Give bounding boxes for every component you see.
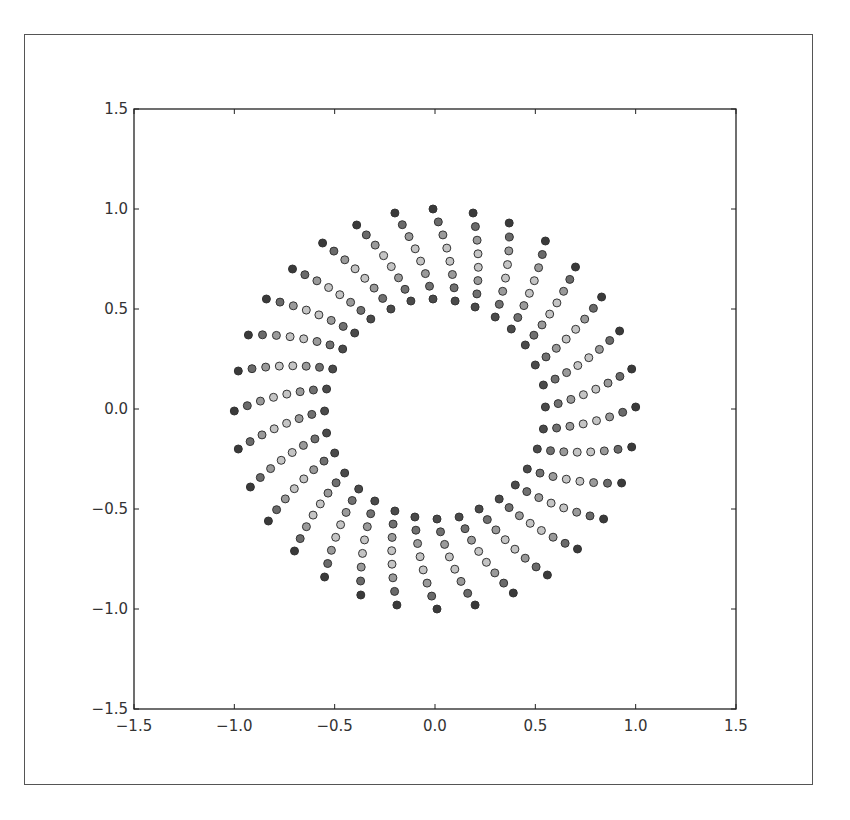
data-point: [469, 209, 477, 217]
y-tick-label: 1.5: [104, 100, 128, 118]
data-point: [371, 241, 379, 249]
data-point: [563, 369, 571, 377]
data-point: [330, 247, 338, 255]
data-point: [553, 299, 561, 307]
data-point: [387, 263, 395, 271]
data-point: [520, 302, 528, 310]
data-point: [547, 447, 555, 455]
data-point: [309, 386, 317, 394]
data-point: [367, 315, 375, 323]
data-point: [553, 424, 561, 432]
data-point: [270, 425, 278, 433]
data-point: [434, 218, 442, 226]
spoke: [230, 385, 330, 415]
data-point: [259, 331, 267, 339]
data-point: [327, 316, 335, 324]
scatter-chart: −1.5−1.0−0.50.00.51.01.5 −1.5−1.0−0.50.0…: [0, 0, 850, 820]
data-point: [246, 483, 254, 491]
data-point: [474, 277, 482, 285]
data-point: [323, 385, 331, 393]
data-point: [530, 277, 538, 285]
data-point: [535, 264, 543, 272]
data-point: [243, 402, 251, 410]
data-point: [258, 431, 266, 439]
data-point: [552, 344, 560, 352]
x-tick-label: −0.5: [316, 717, 352, 735]
spoke: [264, 449, 338, 525]
data-point: [632, 403, 640, 411]
data-point: [537, 527, 545, 535]
spoke: [507, 237, 549, 333]
data-point: [573, 508, 581, 516]
data-point: [592, 385, 600, 393]
data-point: [319, 239, 327, 247]
data-point: [316, 363, 324, 371]
data-point: [598, 293, 606, 301]
data-point: [562, 475, 570, 483]
y-tick-label: −0.5: [92, 500, 128, 518]
data-point: [502, 274, 510, 282]
data-point: [379, 294, 387, 302]
data-point: [474, 250, 482, 258]
data-point: [275, 362, 283, 370]
data-point: [501, 536, 509, 544]
data-point: [281, 495, 289, 503]
data-point: [448, 271, 456, 279]
data-point: [329, 365, 337, 373]
data-point: [560, 287, 568, 295]
spoke: [234, 362, 336, 375]
data-point: [283, 419, 291, 427]
data-point: [628, 365, 636, 373]
data-point: [388, 533, 396, 541]
data-point: [539, 381, 547, 389]
spoke: [262, 295, 358, 337]
data-point: [256, 474, 264, 482]
data-point: [482, 558, 490, 566]
data-point: [526, 519, 534, 527]
data-point: [380, 252, 388, 260]
spoke: [234, 407, 328, 453]
data-point: [256, 397, 264, 405]
data-point: [428, 592, 436, 600]
data-point: [337, 521, 345, 529]
data-point: [267, 465, 275, 473]
data-point: [234, 445, 242, 453]
data-point: [499, 287, 507, 295]
data-point: [554, 400, 562, 408]
data-point: [288, 449, 296, 457]
scatter-points: [230, 205, 639, 613]
data-point: [541, 403, 549, 411]
data-point: [230, 407, 238, 415]
data-point: [619, 408, 627, 416]
data-point: [433, 515, 441, 523]
data-point: [321, 407, 329, 415]
data-point: [393, 601, 401, 609]
data-point: [348, 497, 356, 505]
data-point: [388, 560, 396, 568]
data-point: [339, 345, 347, 353]
spoke: [353, 221, 415, 305]
data-point: [471, 303, 479, 311]
data-point: [302, 523, 310, 531]
data-point: [441, 540, 449, 548]
data-point: [546, 310, 554, 318]
data-point: [600, 447, 608, 455]
data-point: [471, 223, 479, 231]
data-point: [542, 353, 550, 361]
data-point: [514, 314, 522, 322]
data-point: [581, 315, 589, 323]
data-point: [547, 499, 555, 507]
data-point: [248, 365, 256, 373]
spoke: [521, 263, 579, 349]
data-point: [296, 535, 304, 543]
y-tick-label: 1.0: [104, 200, 128, 218]
data-point: [471, 601, 479, 609]
data-point: [589, 304, 597, 312]
data-point: [492, 526, 500, 534]
data-point: [576, 477, 584, 485]
data-point: [277, 456, 285, 464]
data-point: [324, 560, 332, 568]
data-point: [531, 361, 539, 369]
data-point: [389, 574, 397, 582]
data-point: [295, 415, 303, 423]
